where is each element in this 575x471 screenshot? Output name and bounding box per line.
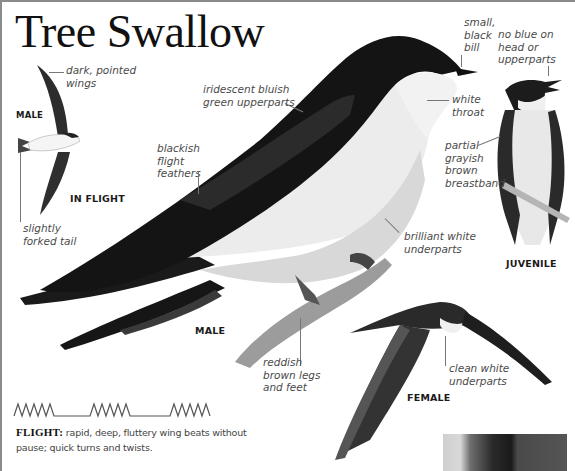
leader-line <box>445 336 446 366</box>
flight-description: FLIGHT: rapid, deep, fluttery wing beats… <box>16 425 266 455</box>
flight-pattern-icon <box>14 400 214 418</box>
flight-heading: FLIGHT: <box>16 426 63 438</box>
label-clean-white-underparts: clean white underparts <box>449 362 509 387</box>
habitat-inset-photo <box>443 434 567 471</box>
field-guide-page: Tree Swallow dark, pointed wings MALE IN… <box>0 0 575 471</box>
caption-female: FEMALE <box>407 392 451 403</box>
